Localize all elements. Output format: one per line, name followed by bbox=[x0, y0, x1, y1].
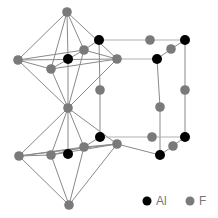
al-atom-icon bbox=[63, 149, 73, 159]
bond-line bbox=[51, 69, 68, 108]
f-atom-icon bbox=[145, 35, 155, 45]
legend-al-swatch-icon bbox=[143, 197, 152, 206]
f-atom-icon bbox=[95, 85, 105, 95]
bond-line bbox=[67, 12, 84, 50]
f-atom-icon bbox=[14, 151, 24, 161]
bond-line bbox=[68, 59, 117, 108]
f-atom-icon bbox=[79, 142, 89, 152]
bond-line bbox=[69, 144, 117, 205]
bond-line bbox=[19, 156, 69, 205]
legend-f-label: F bbox=[199, 194, 206, 208]
f-atom-icon bbox=[155, 102, 165, 112]
f-atom-icon bbox=[62, 7, 72, 17]
alf3-structure-diagram bbox=[0, 0, 218, 218]
al-atom-icon bbox=[180, 35, 190, 45]
bond-line bbox=[18, 50, 84, 60]
bond-line bbox=[117, 144, 160, 155]
al-atom-icon bbox=[95, 132, 105, 142]
f-atom-icon bbox=[64, 200, 74, 210]
f-atom-icon bbox=[112, 139, 122, 149]
f-atom-icon bbox=[147, 132, 157, 142]
al-atom-icon bbox=[63, 54, 73, 64]
al-atom-icon bbox=[152, 54, 162, 64]
atoms-layer bbox=[13, 7, 190, 210]
bond-line bbox=[99, 40, 100, 90]
f-atom-icon bbox=[63, 103, 73, 113]
f-atom-icon bbox=[46, 64, 56, 74]
f-atom-icon bbox=[46, 150, 56, 160]
f-atom-icon bbox=[180, 85, 190, 95]
f-atom-icon bbox=[168, 141, 178, 151]
legend-al-label: Al bbox=[156, 194, 167, 208]
bond-line bbox=[51, 108, 68, 155]
legend-f-swatch-icon bbox=[186, 197, 195, 206]
bond-line bbox=[51, 59, 117, 69]
al-atom-icon bbox=[180, 132, 190, 142]
bond-line bbox=[157, 59, 160, 107]
bond-line bbox=[51, 155, 69, 205]
f-atom-icon bbox=[13, 55, 23, 65]
legend bbox=[143, 197, 195, 206]
f-atom-icon bbox=[112, 54, 122, 64]
f-atom-icon bbox=[79, 45, 89, 55]
f-atom-icon bbox=[166, 44, 176, 54]
bond-line bbox=[18, 12, 67, 60]
al-atom-icon bbox=[155, 150, 165, 160]
bond-line bbox=[19, 108, 68, 156]
al-atom-icon bbox=[94, 35, 104, 45]
